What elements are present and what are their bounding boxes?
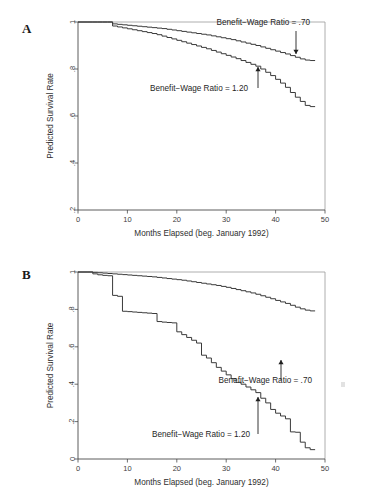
scan-speck — [341, 382, 345, 387]
panel-a: A 01020304050.2.4.6.81Months Elapsed (be… — [0, 0, 365, 251]
y-tick-label: 1 — [68, 270, 77, 274]
annotation-arrowhead-0 — [278, 360, 283, 364]
y-tick-label: .2 — [68, 418, 77, 424]
y-tick-label: .8 — [68, 66, 77, 72]
x-tick-label: 0 — [76, 464, 80, 473]
plot-axes — [78, 22, 325, 210]
x-tick-label: 30 — [222, 464, 230, 473]
y-tick-label: .2 — [68, 207, 77, 213]
panel-b: B 010203040500.2.4.6.81Months Elapsed (b… — [0, 252, 365, 503]
annotation-arrowhead-1 — [255, 397, 260, 401]
x-tick-label: 30 — [222, 215, 230, 224]
x-tick-label: 20 — [173, 215, 181, 224]
y-tick-label: .6 — [68, 113, 77, 119]
annotation-label-ratio-120: Benefit−Wage Ratio = 1.20 — [152, 430, 250, 439]
annotation-arrowhead-1 — [255, 67, 260, 71]
panel-a-plot: 01020304050.2.4.6.81Months Elapsed (beg.… — [0, 0, 365, 251]
annotation-label-ratio-120: Benefit−Wage Ratio = 1.20 — [150, 84, 248, 93]
y-tick-label: 1 — [68, 20, 77, 24]
y-tick-label: .4 — [68, 160, 77, 166]
survival-curve-ratio-120 — [78, 272, 315, 450]
x-tick-label: 10 — [123, 215, 131, 224]
survival-curve-ratio-120 — [78, 22, 315, 107]
y-tick-label: .8 — [68, 306, 77, 312]
annotation-label-ratio-070: Benefit−Wage Ratio = .70 — [217, 18, 311, 27]
x-tick-label: 0 — [76, 215, 80, 224]
panel-b-plot: 010203040500.2.4.6.81Months Elapsed (beg… — [0, 252, 365, 503]
x-tick-label: 40 — [271, 215, 279, 224]
y-axis-title: Predicted Survival Rate — [46, 322, 55, 408]
y-tick-label: 0 — [68, 457, 77, 461]
annotation-arrowhead-0 — [293, 50, 298, 54]
survival-curve-ratio-070 — [78, 22, 315, 61]
annotation-label-ratio-070: Benefit−Wage Ratio = .70 — [219, 376, 313, 385]
y-tick-label: .6 — [68, 344, 77, 350]
x-tick-label: 10 — [123, 464, 131, 473]
y-axis-title: Predicted Survival Rate — [46, 73, 55, 159]
x-tick-label: 50 — [321, 464, 329, 473]
plot-frame — [78, 22, 325, 210]
x-axis-title: Months Elapsed (beg. January 1992) — [134, 229, 269, 238]
y-tick-label: .4 — [68, 381, 77, 387]
x-tick-label: 40 — [271, 464, 279, 473]
x-axis-title: Months Elapsed (beg. January 1992) — [134, 478, 269, 487]
x-tick-label: 50 — [321, 215, 329, 224]
survival-curve-ratio-070 — [78, 272, 315, 311]
x-tick-label: 20 — [173, 464, 181, 473]
